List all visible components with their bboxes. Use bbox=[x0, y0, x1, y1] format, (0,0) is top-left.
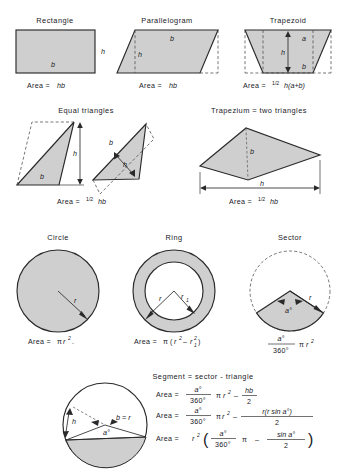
trapezium-formula-prefix: Area = bbox=[229, 198, 252, 206]
equal-triangle-right-label-h: h bbox=[123, 160, 127, 169]
figure-circle: Circle r Area = π r 2 . bbox=[17, 233, 99, 346]
ring-formula-r1-exponent: 2 bbox=[193, 335, 197, 341]
segment-label-h: h bbox=[72, 417, 76, 426]
parallelogram-formula-prefix: Area = bbox=[139, 82, 162, 90]
trapezoid-formula-rest: h(a+b) bbox=[284, 81, 305, 90]
parallelogram-formula: hb bbox=[169, 81, 177, 90]
equal-triangles-title: Equal triangles bbox=[58, 106, 114, 115]
ring-title: Ring bbox=[166, 233, 183, 242]
trapezoid-title: Trapezoid bbox=[270, 16, 307, 25]
trapezium-formula-rest: hb bbox=[270, 197, 278, 206]
segment-formula-3-term-numerator: sin a° bbox=[277, 430, 295, 439]
segment-formula-2-exponent: 2 bbox=[226, 410, 230, 416]
segment-h-arrow-bottom bbox=[63, 431, 70, 438]
segment-formula-3-lead-exponent: 2 bbox=[196, 432, 200, 438]
segment-formula-1-pi: π bbox=[216, 392, 221, 400]
segment-formula-3-prefix: Area = bbox=[156, 435, 179, 443]
segment-formula-3-numerator: a° bbox=[220, 429, 227, 438]
segment-formula-3-open-paren: ( bbox=[203, 431, 209, 448]
figure-sector: Sector r a° a° 360° π r 2 bbox=[250, 233, 330, 355]
sector-label-r: r bbox=[309, 293, 312, 302]
segment-formula-1-var: r bbox=[223, 391, 226, 400]
ring-formula-pi: π bbox=[163, 338, 168, 346]
ring-formula-r-exponent: 2 bbox=[178, 335, 182, 341]
equal-triangles-formula-rest: hb bbox=[98, 197, 106, 206]
ring-formula-r: r bbox=[174, 337, 177, 346]
rectangle-formula-prefix: Area = bbox=[27, 82, 50, 90]
figure-equal-triangles: Equal triangles h b b h Area = 1/2 hb bbox=[17, 106, 154, 206]
rectangle-label-h: h bbox=[101, 47, 105, 56]
segment-formula-3-pi: π bbox=[242, 436, 247, 444]
ring-formula-prefix: Area = bbox=[134, 338, 157, 346]
segment-formula-3-denominator: 360° bbox=[215, 441, 231, 449]
segment-formula-2-prefix: Area = bbox=[156, 412, 179, 420]
trapezoid-formula-frac: 1/2 bbox=[272, 80, 279, 86]
trapezium-label-b: b bbox=[250, 147, 254, 156]
segment-shaded-area bbox=[66, 437, 146, 468]
segment-h-line bbox=[66, 412, 69, 432]
segment-title: Segment = sector - triangle bbox=[152, 372, 253, 381]
segment-formula-2-numerator: a° bbox=[195, 406, 202, 415]
rectangle-label-b: b bbox=[51, 60, 55, 69]
ring-label-r1-subscript: 1 bbox=[186, 297, 189, 303]
figure-parallelogram: Parallelogram b h Area = hb bbox=[117, 16, 218, 90]
segment-formula-1-prefix: Area = bbox=[156, 391, 179, 399]
sector-formula-numerator: a° bbox=[278, 334, 285, 343]
sector-title: Sector bbox=[278, 233, 302, 242]
equal-triangle-right-label-b: b bbox=[109, 138, 113, 147]
segment-formula-2-denominator: 360° bbox=[190, 418, 206, 426]
trapezoid-formula-prefix: Area = bbox=[243, 82, 266, 90]
trapezium-title: Trapezium = two triangles bbox=[211, 106, 307, 115]
circle-formula-var: r bbox=[63, 337, 66, 346]
circle-formula-prefix: Area = bbox=[28, 338, 51, 346]
segment-formula-2-term-denominator: 2 bbox=[275, 419, 279, 427]
figure-rectangle: Rectangle h b Area = hb bbox=[16, 16, 105, 90]
segment-formula-1-numerator: a° bbox=[195, 385, 202, 394]
rectangle-formula: hb bbox=[57, 81, 65, 90]
figure-trapezoid: Trapezoid a h b Area = 1/2 h(a+b) bbox=[243, 16, 331, 90]
ring-formula-r1-subscript: 1 bbox=[194, 342, 197, 348]
trapezium-arrow-left bbox=[200, 185, 206, 191]
segment-formula-3-term-denominator: 2 bbox=[284, 442, 288, 450]
segment-formula-1-exponent: 2 bbox=[227, 389, 231, 395]
equal-triangle-right-shape bbox=[93, 124, 146, 180]
segment-formula-2: Area = a° 360° π r 2 – r(r sin a°) 2 bbox=[156, 406, 313, 427]
segment-formula-3: Area = r 2 ( a° 360° π – sin a° 2 ) bbox=[156, 429, 313, 450]
equal-triangles-formula-frac: 1/2 bbox=[86, 196, 93, 202]
segment-formula-1: Area = a° 360° π r 2 – hb 2 bbox=[156, 385, 257, 406]
trapezium-label-h: h bbox=[260, 179, 264, 188]
equal-triangle-left-label-h: h bbox=[73, 149, 77, 158]
segment-formula-3-close-paren: ) bbox=[308, 431, 313, 448]
equal-triangles-formula-prefix: Area = bbox=[57, 198, 80, 206]
ring-formula-r1: r bbox=[190, 337, 193, 346]
trapezoid-label-h: h bbox=[281, 48, 285, 57]
segment-formula-3-minus: – bbox=[255, 436, 259, 444]
segment-radius-to-chord-right bbox=[105, 425, 146, 437]
equal-triangle-left-arrow-down bbox=[77, 179, 83, 185]
circle-formula-pi: π bbox=[57, 338, 62, 346]
sector-label-angle: a° bbox=[285, 306, 292, 315]
equal-triangle-left-arrow-up bbox=[77, 122, 83, 128]
segment-height-dash bbox=[73, 407, 105, 425]
sector-formula-pi: π bbox=[299, 341, 304, 349]
trapezoid-label-b: b bbox=[302, 62, 306, 71]
segment-formula-2-term-numerator: r(r sin a°) bbox=[262, 407, 292, 416]
parallelogram-shape bbox=[117, 30, 218, 73]
segment-formula-3-lead-var: r bbox=[192, 434, 195, 443]
parallelogram-label-h: h bbox=[138, 50, 142, 59]
figure-segment: Segment = sector - triangle h b = r a° A… bbox=[63, 372, 314, 468]
segment-label-angle: a° bbox=[103, 428, 110, 437]
segment-formula-1-denominator: 360° bbox=[190, 397, 206, 405]
segment-formula-1-term-denominator: 2 bbox=[247, 398, 251, 406]
segment-label-b-eq-r: b = r bbox=[116, 413, 131, 422]
segment-angle-arrow-left bbox=[91, 420, 99, 426]
geometry-reference-sheet: Rectangle h b Area = hb Parallelogram b … bbox=[0, 0, 346, 473]
circle-formula-exponent: 2 bbox=[67, 335, 71, 341]
segment-formula-1-term-numerator: hb bbox=[245, 386, 253, 395]
parallelogram-label-b: b bbox=[170, 34, 174, 43]
segment-radius-to-chord-left bbox=[66, 425, 105, 440]
trapezoid-label-a: a bbox=[302, 34, 306, 43]
circle-title: Circle bbox=[47, 233, 69, 242]
figure-trapezium: Trapezium = two triangles b h Area = 1/2… bbox=[200, 106, 320, 206]
figure-ring: Ring r r 1 Area = π ( r 2 – r 1 2 ) bbox=[133, 233, 215, 348]
